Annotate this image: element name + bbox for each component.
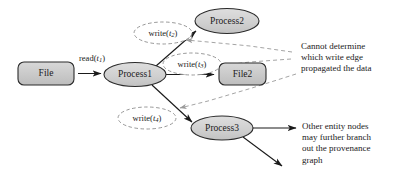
annotation-branching-line-1: Other entity nodes	[302, 121, 371, 132]
node-process3[interactable]: Process3	[191, 116, 253, 140]
file2-label: File2	[233, 69, 253, 79]
read-t1-label: read(t1)	[79, 53, 105, 64]
process1-label: Process1	[118, 69, 152, 79]
annotation-ambiguity-note: Cannot determine which write edge propag…	[301, 41, 371, 75]
node-file[interactable]: File	[18, 62, 74, 85]
annotation-ambiguity-line-3: propagated the data	[301, 63, 371, 74]
annotation-ambiguity-line-1: Cannot determine	[301, 41, 371, 52]
annotation-ambiguity-line-2: which write edge	[301, 52, 371, 63]
edge-process3-to-other-down	[243, 137, 282, 166]
annotation-branching-line-4: graph	[302, 155, 371, 166]
annotation-branching-line-2: may further branch	[302, 132, 371, 143]
process2-label: Process2	[210, 16, 244, 26]
node-file2[interactable]: File2	[219, 63, 266, 85]
leader-to-write-t2	[186, 40, 292, 52]
provenance-diagram: write(t2) write(t3) write(t4) read(t1)	[0, 0, 401, 185]
edge-label-write-t3: write(t3)	[163, 53, 221, 75]
edge-label-write-t2: write(t2)	[134, 22, 192, 44]
annotation-branching-note: Other entity nodes may further branch ou…	[302, 121, 371, 166]
process3-label: Process3	[205, 123, 239, 133]
node-process1[interactable]: Process1	[104, 63, 166, 87]
file-label: File	[39, 68, 54, 78]
node-process2[interactable]: Process2	[195, 9, 259, 34]
annotation-branching-line-3: out the provenance	[302, 143, 371, 154]
edge-label-read-t1: read(t1)	[79, 53, 105, 64]
edge-label-write-t4: write(t4)	[118, 107, 176, 129]
